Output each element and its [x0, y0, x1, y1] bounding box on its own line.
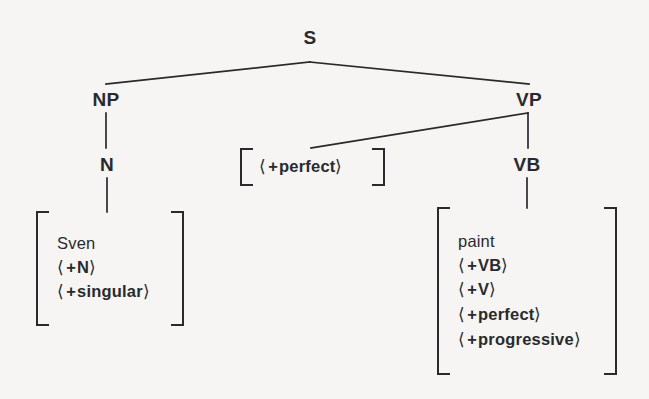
angle-close-icon: ⟩ [89, 258, 96, 277]
angle-close-icon: ⟩ [335, 157, 342, 176]
aux-feature-matrix: ⟨+perfect⟩ [240, 148, 385, 186]
node-s: S [304, 27, 317, 49]
matrix-row: paint [458, 230, 598, 254]
bracket-right-close [604, 207, 617, 375]
feature-sign: + [465, 330, 478, 348]
angle-close-icon: ⟩ [489, 280, 496, 299]
bracket-left-open [437, 207, 450, 375]
subject-feature-matrix: Sven ⟨+N⟩ ⟨+singular⟩ [36, 211, 184, 326]
bracket-right-close [372, 148, 385, 186]
feature-name: V [478, 280, 489, 298]
verb-matrix-rows: paint ⟨+VB⟩ ⟨+V⟩ ⟨+perfect⟩ ⟨+progressiv… [450, 207, 604, 375]
lexeme-text: Sven [57, 234, 95, 252]
feature-name: VB [478, 256, 501, 274]
node-vb: VB [514, 154, 541, 176]
feature-sign: + [465, 280, 478, 298]
bracket-left-open [36, 211, 49, 326]
node-n: N [100, 154, 114, 176]
matrix-row: ⟨+perfect⟩ [458, 303, 598, 328]
feature-name: singular [77, 282, 143, 300]
matrix-row: ⟨+singular⟩ [57, 280, 165, 305]
feature-sign: + [465, 256, 478, 274]
branch-vp-to-aux [311, 113, 528, 148]
matrix-row: ⟨+V⟩ [458, 278, 598, 303]
matrix-row: ⟨+perfect⟩ [259, 157, 367, 177]
verb-feature-matrix: paint ⟨+VB⟩ ⟨+V⟩ ⟨+perfect⟩ ⟨+progressiv… [437, 207, 617, 375]
node-np: NP [93, 89, 120, 111]
feature-sign: + [266, 157, 279, 175]
matrix-row: Sven [57, 232, 165, 256]
branch-s-to-vp [310, 62, 529, 84]
angle-close-icon: ⟩ [574, 330, 581, 349]
bracket-left-open [240, 148, 253, 186]
matrix-row: ⟨+N⟩ [57, 256, 165, 281]
lexeme-text: paint [458, 232, 495, 250]
feature-name: progressive [478, 330, 574, 348]
node-vp: VP [516, 89, 542, 111]
angle-close-icon: ⟩ [534, 305, 541, 324]
subject-matrix-rows: Sven ⟨+N⟩ ⟨+singular⟩ [49, 211, 171, 326]
syntax-tree-figure: S NP VP N VB Sven ⟨+N⟩ ⟨+singular⟩ ⟨+per… [0, 0, 649, 399]
matrix-row: ⟨+VB⟩ [458, 254, 598, 279]
angle-close-icon: ⟩ [501, 256, 508, 275]
aux-matrix-rows: ⟨+perfect⟩ [253, 148, 372, 186]
feature-sign: + [465, 305, 478, 323]
feature-name: N [77, 258, 89, 276]
angle-close-icon: ⟩ [143, 282, 150, 301]
branch-s-to-np [106, 62, 310, 84]
bracket-right-close [171, 211, 184, 326]
feature-sign: + [64, 282, 77, 300]
matrix-row: ⟨+progressive⟩ [458, 328, 598, 353]
feature-sign: + [64, 258, 77, 276]
feature-name: perfect [279, 157, 335, 175]
feature-name: perfect [478, 305, 534, 323]
